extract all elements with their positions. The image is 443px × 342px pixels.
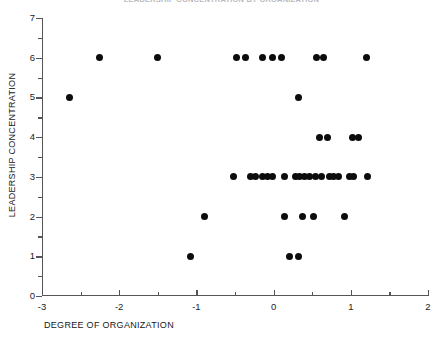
data-point — [316, 134, 323, 141]
y-tick-2 — [36, 217, 42, 218]
y-tick-label-0: 0 — [30, 291, 35, 301]
y-tick-label-6: 6 — [30, 53, 35, 63]
plot-area: 01234567 -3-2-1012 — [42, 18, 428, 296]
x-tick-label--2: -2 — [115, 302, 123, 312]
y-tick-7 — [36, 18, 42, 19]
data-point — [363, 54, 370, 61]
y-minor-tick — [38, 38, 42, 39]
data-point — [286, 253, 293, 260]
data-point — [242, 54, 249, 61]
x-tick--1 — [196, 290, 197, 296]
y-axis-label: LEADERSHIP CONCENTRATION — [7, 61, 17, 229]
x-tick-label-2: 2 — [425, 302, 430, 312]
x-minor-tick — [158, 292, 159, 296]
x-tick-1 — [351, 290, 352, 296]
y-tick-label-5: 5 — [30, 93, 35, 103]
data-point — [355, 134, 362, 141]
data-point — [230, 173, 237, 180]
data-point — [364, 173, 371, 180]
data-point — [269, 54, 276, 61]
data-point — [320, 54, 327, 61]
y-tick-5 — [36, 97, 42, 98]
x-tick-2 — [428, 290, 429, 296]
scatter-plot-figure: LEADERSHIP CONCENTRATION BY ORGANIZATION… — [0, 0, 443, 342]
y-tick-3 — [36, 177, 42, 178]
chart-title: LEADERSHIP CONCENTRATION BY ORGANIZATION — [0, 0, 443, 4]
y-axis-line — [42, 18, 43, 296]
data-point — [299, 213, 306, 220]
y-tick-label-3: 3 — [30, 172, 35, 182]
y-minor-tick — [38, 197, 42, 198]
data-point — [154, 54, 161, 61]
y-tick-6 — [36, 58, 42, 59]
data-point — [281, 213, 288, 220]
x-tick-label--3: -3 — [38, 302, 46, 312]
data-point — [252, 173, 259, 180]
y-minor-tick — [38, 78, 42, 79]
y-tick-1 — [36, 256, 42, 257]
x-tick--3 — [42, 290, 43, 296]
data-point — [341, 213, 348, 220]
data-point — [278, 54, 285, 61]
data-point — [259, 54, 266, 61]
data-point — [318, 173, 325, 180]
x-tick-0 — [274, 290, 275, 296]
y-minor-tick — [38, 236, 42, 237]
x-minor-tick — [235, 292, 236, 296]
data-point — [350, 173, 357, 180]
data-point — [324, 134, 331, 141]
y-tick-4 — [36, 137, 42, 138]
data-point — [295, 253, 302, 260]
y-minor-tick — [38, 157, 42, 158]
x-tick--2 — [119, 290, 120, 296]
y-tick-label-7: 7 — [30, 13, 35, 23]
data-point — [233, 54, 240, 61]
y-tick-label-2: 2 — [30, 212, 35, 222]
data-point — [295, 94, 302, 101]
data-point — [187, 253, 194, 260]
data-point — [201, 213, 208, 220]
data-point — [269, 173, 276, 180]
y-tick-label-4: 4 — [30, 132, 35, 142]
x-minor-tick — [312, 292, 313, 296]
data-point — [66, 94, 73, 101]
y-tick-label-1: 1 — [30, 252, 35, 262]
x-minor-tick — [81, 292, 82, 296]
data-point — [310, 213, 317, 220]
data-point — [96, 54, 103, 61]
x-minor-tick — [389, 292, 390, 296]
x-tick-label--1: -1 — [192, 302, 200, 312]
y-minor-tick — [38, 117, 42, 118]
x-tick-label-1: 1 — [348, 302, 353, 312]
data-point — [335, 173, 342, 180]
x-axis-label: DEGREE OF ORGANIZATION — [44, 320, 174, 330]
x-tick-label-0: 0 — [271, 302, 276, 312]
data-point — [281, 173, 288, 180]
y-minor-tick — [38, 276, 42, 277]
y-tick-0 — [36, 296, 42, 297]
